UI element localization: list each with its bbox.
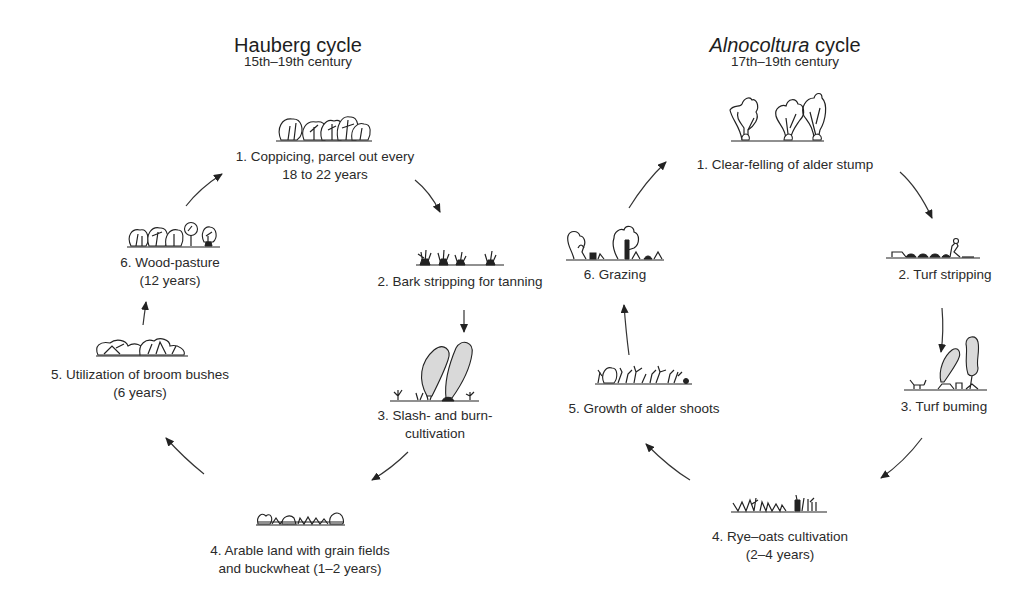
stage-label-line2: (6 years)	[20, 384, 260, 402]
alder-shoots-icon	[595, 366, 692, 384]
stage-label-line1: 3. Slash- and burn-	[360, 407, 510, 425]
wood-pasture-trees-icon	[127, 223, 220, 248]
stage-label-line1: 5. Growth of alder shoots	[554, 400, 734, 418]
hauberg-stage-3: 3. Slash- and burn- cultivation	[360, 407, 510, 443]
stage-label-line2: cultivation	[360, 425, 510, 443]
arrow-4-to-5-icon	[646, 444, 690, 480]
stage-label-line2: (12 years)	[100, 272, 240, 290]
stage-label-line1: 4. Rye–oats cultivation	[680, 528, 880, 546]
arrow-6-to-1-icon	[629, 162, 666, 208]
stage-label-line2: (2–4 years)	[680, 546, 880, 564]
alnocoltura-stage-2: 2. Turf stripping	[880, 266, 1010, 284]
alnocoltura-title-rest: cycle	[809, 34, 860, 56]
arrow-2-to-3-icon	[941, 308, 943, 352]
alnocoltura-stage-5: 5. Growth of alder shoots	[554, 400, 734, 418]
stage-label-line1: 6. Grazing	[565, 266, 665, 284]
stage-label-line2: and buckwheat (1–2 years)	[180, 560, 420, 578]
hauberg-period: 15th–19th century	[218, 54, 378, 69]
arrow-4-to-5-icon	[166, 438, 204, 474]
hauberg-stage-4: 4. Arable land with grain fields and buc…	[180, 542, 420, 578]
arrow-3-to-4-icon	[372, 452, 408, 480]
alnocoltura-period: 17th–19th century	[690, 54, 880, 69]
stage-label-line1: 5. Utilization of broom bushes	[20, 366, 260, 384]
stage-label-line1: 1. Clear-felling of alder stump	[670, 156, 900, 174]
hauberg-stage-5: 5. Utilization of broom bushes (6 years)	[20, 366, 260, 402]
turf-burning-smoke-icon	[904, 337, 987, 390]
cycle-diagram-graphics	[0, 0, 1028, 600]
arrow-5-to-6-icon	[624, 305, 629, 355]
rye-oats-field-icon	[731, 495, 827, 512]
stage-label-line1: 1. Coppicing, parcel out every	[200, 148, 450, 166]
alnocoltura-stage-4: 4. Rye–oats cultivation (2–4 years)	[680, 528, 880, 564]
arrow-1-to-2-icon	[900, 172, 932, 218]
alnocoltura-arrows	[624, 162, 943, 480]
arrow-5-to-6-icon	[143, 302, 146, 325]
arrow-3-to-4-icon	[881, 438, 922, 478]
turf-stripping-icon	[886, 239, 980, 259]
alnocoltura-stage-1: 1. Clear-felling of alder stump	[670, 156, 900, 174]
stage-label-line1: 2. Turf stripping	[880, 266, 1010, 284]
alder-trees-icon	[730, 94, 826, 142]
stage-label-line1: 6. Wood-pasture	[100, 254, 240, 272]
grain-field-icon	[256, 513, 345, 525]
grazing-icon	[566, 226, 664, 260]
alnocoltura-title-italic: Alnocoltura	[709, 34, 809, 56]
hauberg-stage-2: 2. Bark stripping for tanning	[355, 273, 565, 291]
hauberg-stage-1: 1. Coppicing, parcel out every 18 to 22 …	[200, 148, 450, 184]
stage-label-line1: 4. Arable land with grain fields	[180, 542, 420, 560]
broom-bushes-icon	[96, 339, 188, 356]
hauberg-stage-6: 6. Wood-pasture (12 years)	[100, 254, 240, 290]
arrow-1-to-2-icon	[415, 180, 440, 212]
alnocoltura-stage-6: 6. Grazing	[565, 266, 665, 284]
stage-label-line1: 3. Turf buming	[884, 398, 1004, 416]
stage-label-line2: 18 to 22 years	[200, 166, 450, 184]
stage-label-line1: 2. Bark stripping for tanning	[355, 273, 565, 291]
stripped-stumps-icon	[416, 250, 504, 265]
alnocoltura-stage-3: 3. Turf buming	[884, 398, 1004, 416]
burning-smoke-icon	[390, 342, 479, 401]
coppice-trees-icon	[276, 117, 372, 141]
